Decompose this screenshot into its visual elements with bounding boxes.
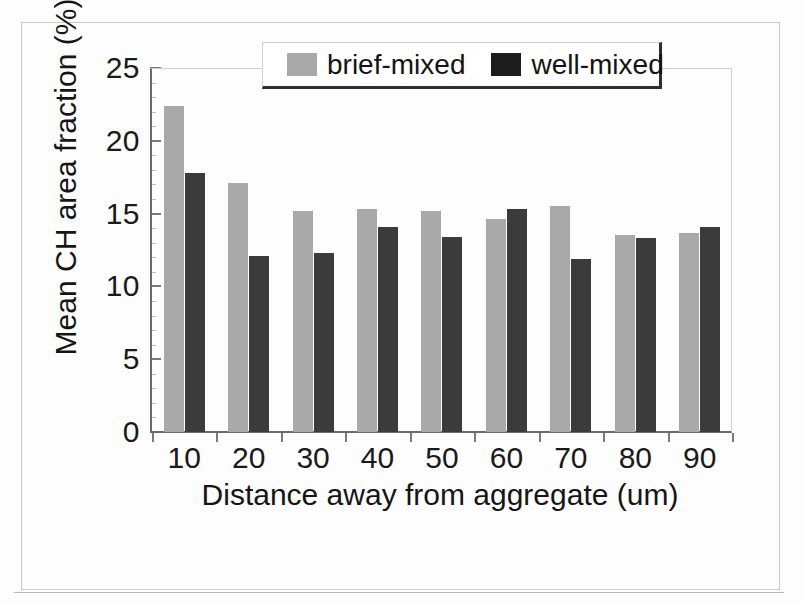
chart-legend: brief-mixedwell-mixed xyxy=(262,42,662,89)
bar-brief-mixed-50[interactable] xyxy=(421,211,441,432)
bar-brief-mixed-70[interactable] xyxy=(550,206,570,432)
bar-brief-mixed-60[interactable] xyxy=(486,219,506,432)
black-swatch-icon xyxy=(491,53,521,76)
x-tick-label: 60 xyxy=(490,441,523,475)
bar-brief-mixed-20[interactable] xyxy=(228,183,248,432)
legend-label: well-mixed xyxy=(531,49,663,81)
x-tick-label: 70 xyxy=(554,441,587,475)
bar-well-mixed-40[interactable] xyxy=(378,227,398,432)
bar-brief-mixed-40[interactable] xyxy=(357,209,377,432)
bar-group xyxy=(281,68,345,432)
x-tick-label: 80 xyxy=(619,441,652,475)
bar-well-mixed-60[interactable] xyxy=(507,209,527,432)
x-tick-label: 90 xyxy=(683,441,716,475)
bar-well-mixed-80[interactable] xyxy=(636,238,656,432)
legend-label: brief-mixed xyxy=(327,49,465,81)
x-tick-label: 10 xyxy=(168,441,201,475)
bar-group xyxy=(539,68,603,432)
x-tick-label: 50 xyxy=(425,441,458,475)
x-axis-tick-labels: 102030405060708090 xyxy=(152,441,732,481)
legend-entry-well-mixed[interactable]: well-mixed xyxy=(491,49,663,81)
x-tick-mark xyxy=(732,433,734,442)
x-tick-label: 30 xyxy=(296,441,329,475)
figure-bottom-rule xyxy=(14,592,784,593)
legend-entry-brief-mixed[interactable]: brief-mixed xyxy=(287,49,465,81)
x-axis-title: Distance away from aggregate (um) xyxy=(120,478,760,512)
bar-group xyxy=(345,68,409,432)
bar-group xyxy=(216,68,280,432)
bar-group xyxy=(152,68,216,432)
y-tick-label: 20 xyxy=(106,124,140,158)
figure-container: Mean CH area fraction (%) 0510152025 102… xyxy=(0,0,803,604)
y-tick-label: 5 xyxy=(123,342,140,376)
bar-well-mixed-20[interactable] xyxy=(249,256,269,432)
y-tick-label: 15 xyxy=(106,197,140,231)
bar-brief-mixed-30[interactable] xyxy=(293,211,313,432)
bar-brief-mixed-90[interactable] xyxy=(679,233,699,432)
bar-group xyxy=(474,68,538,432)
bar-well-mixed-90[interactable] xyxy=(700,227,720,432)
y-tick-label: 0 xyxy=(123,415,140,449)
y-tick-label: 10 xyxy=(106,269,140,303)
bar-brief-mixed-10[interactable] xyxy=(164,106,184,432)
bar-well-mixed-10[interactable] xyxy=(185,173,205,432)
bar-well-mixed-50[interactable] xyxy=(442,237,462,432)
y-tick-label: 25 xyxy=(106,51,140,85)
bar-well-mixed-30[interactable] xyxy=(314,253,334,432)
x-tick-label: 20 xyxy=(232,441,265,475)
y-axis-tick-labels: 0510152025 xyxy=(78,68,140,432)
light-gray-swatch-icon xyxy=(287,53,317,76)
bar-group xyxy=(603,68,667,432)
bar-well-mixed-70[interactable] xyxy=(571,259,591,432)
bar-brief-mixed-80[interactable] xyxy=(615,235,635,432)
bar-group xyxy=(410,68,474,432)
plot-area xyxy=(152,68,732,432)
x-tick-label: 40 xyxy=(361,441,394,475)
bar-group xyxy=(668,68,732,432)
